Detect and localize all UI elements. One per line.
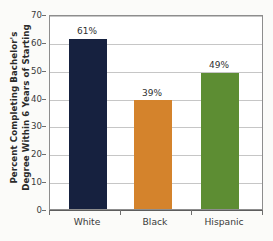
y-tick-mark-0 [42, 210, 46, 211]
y-tick-mark-20 [42, 154, 46, 155]
data-label-white: 61% [77, 26, 97, 36]
y-tick-mark-30 [42, 126, 46, 127]
x-tick-mark-2 [191, 210, 192, 215]
x-tick-mark-left [49, 210, 50, 215]
x-tick-label-white: White [74, 216, 101, 227]
y-tick-mark-60 [42, 43, 46, 44]
plot-area [49, 15, 263, 210]
y-tick-mark-10 [42, 182, 46, 183]
x-tick-mark-1 [120, 210, 121, 215]
bar-white[interactable] [69, 39, 107, 209]
x-tick-mark-right [262, 210, 263, 215]
y-tick-mark-40 [42, 99, 46, 100]
y-axis-tick-marks [0, 15, 53, 210]
x-axis-line [49, 210, 263, 211]
bar-chart: Percent Completing Bachelor's Degree Wit… [0, 0, 273, 241]
gridline-70 [50, 16, 262, 17]
y-tick-mark-70 [42, 15, 46, 16]
bar-hispanic[interactable] [201, 73, 239, 210]
data-label-black: 39% [142, 88, 162, 98]
x-tick-label-black: Black [143, 216, 168, 227]
y-tick-mark-50 [42, 71, 46, 72]
data-label-hispanic: 49% [209, 60, 229, 70]
bar-black[interactable] [134, 100, 172, 209]
x-tick-label-hispanic: Hispanic [204, 216, 243, 227]
